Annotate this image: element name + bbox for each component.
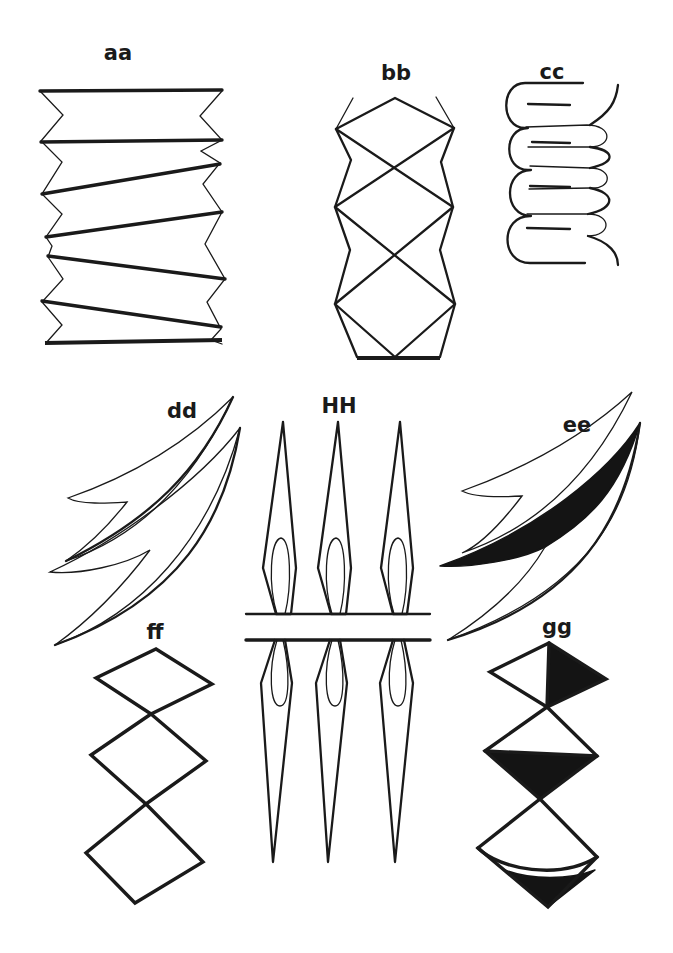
label-aa: aa bbox=[104, 43, 132, 64]
label-cc: cc bbox=[540, 62, 565, 83]
figure-cc bbox=[506, 83, 618, 265]
label-ee: ee bbox=[563, 415, 592, 436]
figure-aa bbox=[40, 90, 225, 344]
figure-ff bbox=[86, 649, 212, 903]
figure-bb bbox=[335, 97, 455, 358]
figure-dd bbox=[50, 397, 240, 645]
pattern-plate-drawing bbox=[0, 0, 673, 953]
label-ff: ff bbox=[146, 622, 163, 643]
pattern-plate: aa bb cc dd HH ee ff gg bbox=[0, 0, 673, 953]
figure-gg bbox=[478, 643, 606, 907]
label-gg: gg bbox=[542, 617, 572, 638]
hh-lower-spear-3 bbox=[380, 640, 413, 862]
hh-lower-spear-2 bbox=[316, 640, 347, 862]
label-dd: dd bbox=[167, 401, 197, 422]
label-hh: HH bbox=[321, 396, 356, 417]
figure-ee bbox=[440, 392, 640, 640]
label-bb: bb bbox=[381, 63, 411, 84]
figure-hh bbox=[246, 422, 430, 862]
hh-lower-spear-1 bbox=[261, 640, 292, 862]
hh-upper-spear-1 bbox=[263, 422, 296, 614]
hh-upper-spear-2 bbox=[318, 422, 351, 614]
hh-upper-spear-3 bbox=[381, 422, 413, 614]
